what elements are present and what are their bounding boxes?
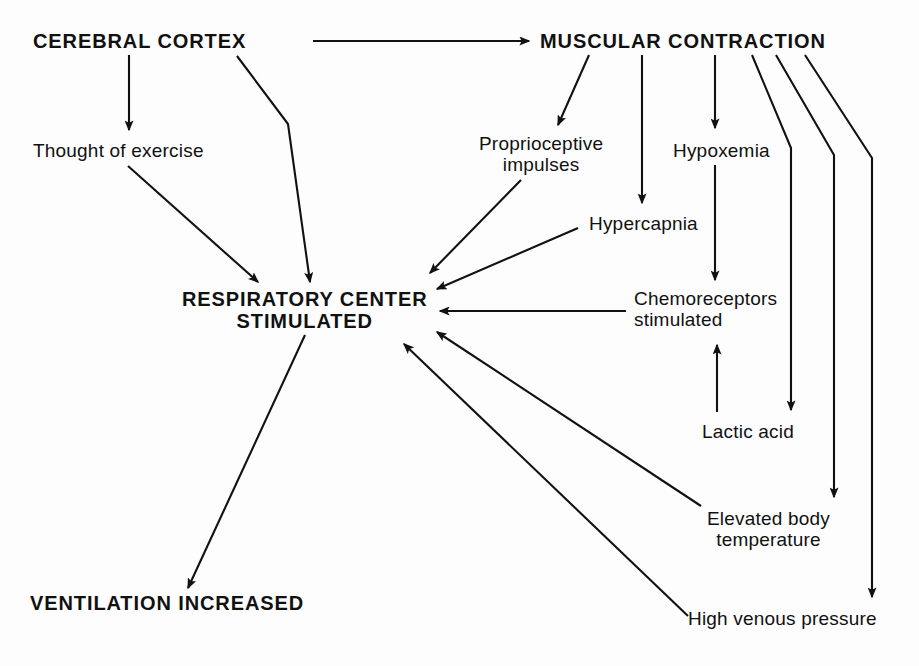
node-label-line: STIMULATED bbox=[182, 310, 428, 332]
node-label-line: Hypercapnia bbox=[589, 213, 698, 234]
node-proprioceptive-impulses: Proprioceptiveimpulses bbox=[479, 133, 603, 176]
node-chemoreceptors: Chemoreceptorsstimulated bbox=[634, 288, 777, 331]
node-label-line: RESPIRATORY CENTER bbox=[182, 288, 428, 310]
edge-cortex-to-respiratory bbox=[237, 56, 310, 282]
node-label-line: VENTILATION INCREASED bbox=[30, 592, 304, 614]
node-label-line: impulses bbox=[479, 154, 603, 175]
node-label-line: Elevated body bbox=[707, 508, 830, 529]
edge-body-temp-to-respiratory bbox=[437, 332, 701, 506]
node-label-line: stimulated bbox=[634, 309, 777, 330]
node-hypercapnia: Hypercapnia bbox=[589, 213, 698, 234]
node-muscular-contraction: MUSCULAR CONTRACTION bbox=[540, 30, 826, 52]
edge-venous-to-respiratory bbox=[404, 344, 688, 616]
node-label-line: Lactic acid bbox=[702, 421, 794, 442]
node-ventilation-increased: VENTILATION INCREASED bbox=[30, 592, 304, 614]
node-respiratory-center: RESPIRATORY CENTERSTIMULATED bbox=[182, 288, 428, 333]
node-thought-of-exercise: Thought of exercise bbox=[33, 140, 204, 161]
node-label-line: temperature bbox=[707, 529, 830, 550]
flow-diagram: CEREBRAL CORTEXMUSCULAR CONTRACTIONThoug… bbox=[0, 0, 919, 666]
edge-thought-to-respiratory bbox=[128, 166, 258, 282]
node-label-line: Thought of exercise bbox=[33, 140, 204, 161]
edge-respiratory-to-ventilation bbox=[188, 335, 305, 588]
diagram-edges-layer bbox=[0, 0, 919, 666]
node-label-line: Proprioceptive bbox=[479, 133, 603, 154]
node-label-line: Hypoxemia bbox=[673, 140, 770, 161]
node-label-line: MUSCULAR CONTRACTION bbox=[540, 30, 826, 52]
node-label-line: CEREBRAL CORTEX bbox=[33, 30, 246, 52]
node-label-line: Chemoreceptors bbox=[634, 288, 777, 309]
node-label-line: High venous pressure bbox=[688, 608, 877, 629]
node-lactic-acid: Lactic acid bbox=[702, 421, 794, 442]
node-elevated-body-temperature: Elevated bodytemperature bbox=[707, 508, 830, 551]
edge-hypercapnia-to-respiratory bbox=[437, 228, 578, 289]
node-hypoxemia: Hypoxemia bbox=[673, 140, 770, 161]
node-cerebral-cortex: CEREBRAL CORTEX bbox=[33, 30, 246, 52]
node-high-venous-pressure: High venous pressure bbox=[688, 608, 877, 629]
edge-muscular-to-proprioceptive bbox=[558, 55, 589, 125]
edge-muscular-to-lactic-acid bbox=[752, 55, 791, 410]
